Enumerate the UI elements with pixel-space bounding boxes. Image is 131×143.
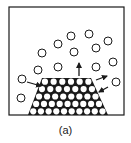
lattice-molecule — [47, 86, 53, 92]
free-molecule — [104, 37, 112, 45]
lattice-molecule — [89, 86, 95, 92]
lattice-molecule — [72, 86, 78, 92]
lattice-molecule — [76, 93, 82, 99]
lattice-molecule — [46, 108, 52, 114]
lattice-molecule — [33, 101, 39, 107]
free-molecule — [67, 32, 75, 40]
lattice-molecule — [80, 101, 86, 107]
free-molecule — [70, 48, 78, 56]
lattice-molecule — [36, 93, 42, 99]
free-molecule — [38, 49, 46, 57]
lattice-molecule — [92, 93, 98, 99]
free-molecule — [112, 78, 120, 86]
free-molecule — [18, 75, 26, 83]
free-molecule — [54, 40, 62, 48]
free-molecule — [109, 58, 117, 66]
lattice-molecule — [99, 108, 105, 114]
lattice-molecule — [84, 93, 90, 99]
lattice-molecule — [59, 79, 65, 85]
lattice-molecule — [72, 101, 78, 107]
arrow-icon — [96, 76, 107, 80]
lattice-molecule — [81, 86, 87, 92]
free-molecule — [92, 63, 100, 71]
lattice-molecule — [41, 101, 47, 107]
lattice-molecule — [52, 93, 58, 99]
lattice-molecule — [51, 79, 57, 85]
free-molecule — [34, 66, 42, 74]
lattice-molecule — [92, 108, 98, 114]
lattice-molecule — [53, 108, 59, 114]
lattice-molecule — [69, 108, 75, 114]
free-molecule — [17, 94, 25, 102]
lattice-molecule — [77, 79, 83, 85]
lattice-molecule — [85, 79, 91, 85]
lattice-molecule — [96, 101, 102, 107]
arrow-icon — [99, 87, 108, 92]
lattice-molecule — [44, 93, 50, 99]
lattice-molecule — [68, 79, 74, 85]
crystal-lattice — [28, 78, 108, 115]
free-molecule — [92, 44, 100, 52]
lattice-molecule — [42, 79, 48, 85]
lattice-molecule — [68, 93, 74, 99]
lattice-molecule — [39, 86, 45, 92]
lattice-molecule — [88, 101, 94, 107]
lattice-molecule — [30, 108, 36, 114]
lattice-molecule — [84, 108, 90, 114]
free-molecule — [54, 63, 62, 71]
lattice-molecule — [49, 101, 55, 107]
lattice-molecule — [64, 86, 70, 92]
lattice-molecule — [38, 108, 44, 114]
arrow-icon — [27, 82, 41, 86]
crystal-growth-diagram — [0, 0, 131, 143]
lattice-molecule — [56, 86, 62, 92]
lattice-molecule — [57, 101, 63, 107]
free-molecule — [85, 30, 93, 38]
figure-caption: (a) — [0, 124, 131, 136]
lattice-molecule — [61, 108, 67, 114]
lattice-molecule — [64, 101, 70, 107]
lattice-molecule — [76, 108, 82, 114]
lattice-molecule — [60, 93, 66, 99]
